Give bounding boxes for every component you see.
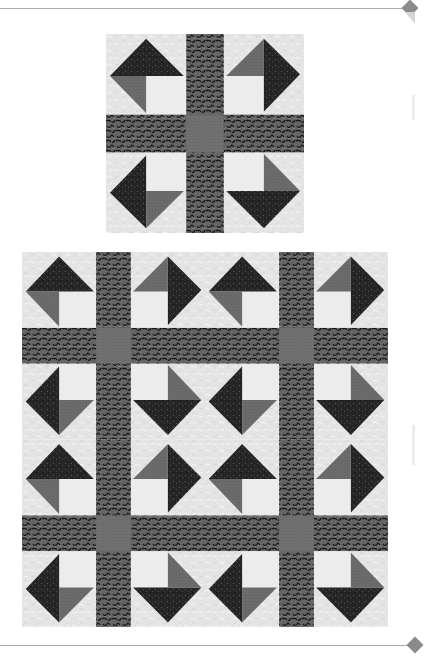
- corner-diamond-icon: [407, 637, 424, 654]
- center-square: [186, 115, 224, 153]
- pinwheel-unit-top-left: [22, 440, 96, 516]
- pinwheel-unit-top-left: [205, 440, 279, 516]
- pinwheel-unit-top-left: [205, 252, 279, 328]
- center-square: [279, 515, 314, 551]
- quilt-block: [205, 252, 388, 440]
- single-block-figure: [106, 34, 304, 233]
- top-rule-line: [0, 8, 404, 9]
- bottom-rule-line: [0, 645, 410, 646]
- center-square: [96, 515, 131, 551]
- pinwheel-unit-bottom-left: [205, 364, 279, 440]
- pinwheel-unit-bottom-right: [314, 551, 388, 627]
- corner-shadow-decoration: [405, 12, 415, 24]
- pinwheel-unit-bottom-left: [205, 551, 279, 627]
- pinwheel-unit-top-right: [314, 252, 388, 328]
- pinwheel-unit-top-right: [224, 34, 304, 115]
- quilt-block: [22, 252, 205, 440]
- pinwheel-unit-bottom-left: [22, 551, 96, 627]
- four-block-quilt-figure: [22, 252, 388, 627]
- quilt-block: [205, 440, 388, 628]
- edge-mark: [412, 425, 415, 465]
- pinwheel-unit-bottom-left: [22, 364, 96, 440]
- pinwheel-unit-top-right: [131, 252, 205, 328]
- quilt-block: [22, 440, 205, 628]
- pinwheel-unit-bottom-right: [314, 364, 388, 440]
- pinwheel-unit-bottom-right: [224, 152, 304, 233]
- pinwheel-unit-bottom-right: [131, 364, 205, 440]
- pinwheel-unit-bottom-left: [106, 152, 186, 233]
- edge-mark: [412, 95, 415, 120]
- pinwheel-unit-top-right: [131, 440, 205, 516]
- pinwheel-unit-top-left: [106, 34, 186, 115]
- quilt-block: [106, 34, 304, 233]
- pinwheel-unit-top-left: [22, 252, 96, 328]
- pinwheel-unit-bottom-right: [131, 551, 205, 627]
- center-square: [96, 328, 131, 364]
- center-square: [279, 328, 314, 364]
- pinwheel-unit-top-right: [314, 440, 388, 516]
